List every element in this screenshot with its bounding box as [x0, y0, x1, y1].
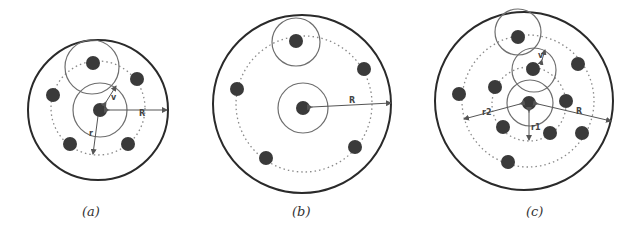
node: [496, 120, 510, 134]
node: [289, 34, 303, 48]
node: [130, 72, 144, 86]
r2-label: r2: [482, 108, 492, 117]
node: [230, 82, 244, 96]
node: [501, 155, 515, 169]
node: [452, 87, 466, 101]
node: [575, 126, 589, 140]
node: [511, 30, 525, 44]
v-label: v: [111, 93, 117, 102]
node: [63, 137, 77, 151]
R-label: R: [139, 109, 145, 118]
caption-b: (b): [292, 204, 310, 219]
node: [488, 80, 502, 94]
node: [526, 62, 540, 76]
v-label: v: [538, 51, 544, 60]
node: [543, 126, 557, 140]
center-node: [522, 96, 536, 110]
R-label: R: [349, 96, 355, 105]
node: [86, 56, 100, 70]
node: [259, 151, 273, 165]
r1-label: r1: [531, 123, 541, 132]
panel-b: R (b): [213, 15, 391, 219]
node: [559, 94, 573, 108]
node: [121, 137, 135, 151]
caption-c: (c): [526, 204, 543, 219]
R-label: R: [576, 107, 582, 116]
R-arrow: [538, 104, 611, 121]
node: [46, 88, 60, 102]
r-label: r: [89, 129, 93, 138]
node: [571, 57, 585, 71]
center-node: [296, 101, 310, 115]
caption-a: (a): [82, 204, 100, 219]
r-arrow: [93, 116, 98, 154]
node: [348, 140, 362, 154]
panel-a: R r v (a): [28, 40, 168, 219]
diagram-canvas: R r v (a) R (b): [0, 0, 643, 236]
center-node: [93, 103, 107, 117]
node: [357, 62, 371, 76]
panel-c: R r2 r1 v (c): [435, 9, 613, 219]
